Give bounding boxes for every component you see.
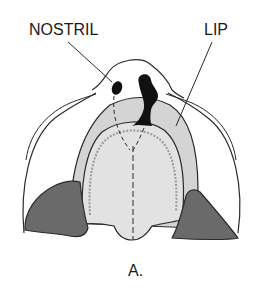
nose-outline (92, 60, 184, 98)
lip-leader-line (176, 42, 212, 126)
nostril-leader-line (68, 42, 112, 82)
cleft-lip-palate-diagram (0, 0, 262, 290)
left-nostril (110, 80, 124, 97)
left-cheek-dark-region (25, 181, 88, 237)
